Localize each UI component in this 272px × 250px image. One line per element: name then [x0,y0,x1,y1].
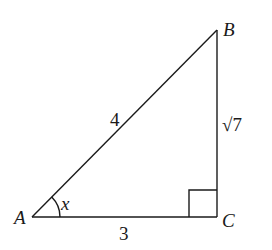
side-ab [32,30,217,217]
side-label-ac: 3 [119,223,129,244]
side-label-ab: 4 [110,109,120,130]
vertex-label-b: B [223,19,235,40]
side-label-bc: √7 [222,114,242,135]
vertex-label-a: A [12,207,26,228]
vertex-label-c: C [222,210,235,231]
angle-label-x: x [60,193,70,214]
angle-arc-a [52,197,60,217]
right-triangle-diagram: A B C 4 √7 3 x [0,0,272,250]
right-angle-marker [189,190,217,217]
